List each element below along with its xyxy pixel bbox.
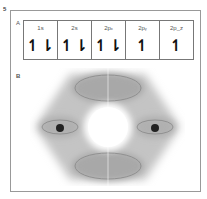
orbital-name: 2pᵧ (126, 25, 159, 31)
electron-cloud-diagram (30, 68, 185, 186)
panel-b-label: B (16, 73, 20, 79)
orbital-box-2py: 2pᵧ ↿ (126, 21, 160, 59)
electron-arrows: ↿ (160, 36, 193, 55)
figure-number: 5 (3, 6, 6, 12)
nucleus-left (56, 124, 64, 132)
orbital-name: 2pₓ (92, 25, 125, 31)
orbital-box-1s: 1s ↿⇂ (24, 21, 58, 59)
orbital-box-2s: 2s ↿⇂ (58, 21, 92, 59)
electron-arrows: ↿⇂ (58, 36, 91, 55)
orbital-name: 2p_z (160, 25, 193, 31)
electron-arrows: ↿⇂ (24, 36, 57, 55)
electron-arrows: ↿ (126, 36, 159, 55)
nucleus-right (151, 124, 159, 132)
orbital-box-2px: 2pₓ ↿⇂ (92, 21, 126, 59)
panel-a-label: A (16, 20, 20, 26)
orbital-box-2pz: 2p_z ↿ (160, 21, 193, 59)
orbital-name: 2s (58, 25, 91, 31)
orbital-diagram: 1s ↿⇂ 2s ↿⇂ 2pₓ ↿⇂ 2pᵧ ↿ 2p_z ↿ (23, 20, 194, 60)
electron-arrows: ↿⇂ (92, 36, 125, 55)
orbital-name: 1s (24, 25, 57, 31)
